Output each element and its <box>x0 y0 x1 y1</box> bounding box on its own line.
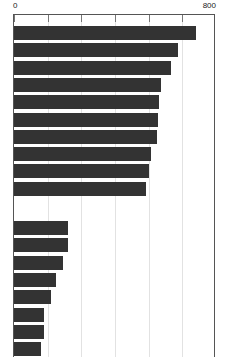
bar <box>14 273 56 287</box>
bar <box>14 26 196 40</box>
bar <box>14 238 68 252</box>
bar <box>14 130 157 144</box>
bar <box>14 43 178 57</box>
bar <box>14 308 44 322</box>
bar <box>14 113 158 127</box>
bars-layer <box>14 15 214 357</box>
axis-label-row: 0 800 <box>0 0 229 14</box>
bar <box>14 342 41 356</box>
bar <box>14 182 146 196</box>
bar <box>14 290 51 304</box>
bar <box>14 147 151 161</box>
axis-tick-label-min: 0 <box>13 1 17 11</box>
plot-area <box>13 14 215 357</box>
bar-chart: 0 800 <box>0 0 229 357</box>
bar <box>14 256 63 270</box>
bar <box>14 164 149 178</box>
bar <box>14 95 159 109</box>
axis-tick-label-max: 800 <box>203 1 216 11</box>
bar <box>14 78 161 92</box>
bar <box>14 325 44 339</box>
bar <box>14 61 171 75</box>
bar <box>14 221 68 235</box>
